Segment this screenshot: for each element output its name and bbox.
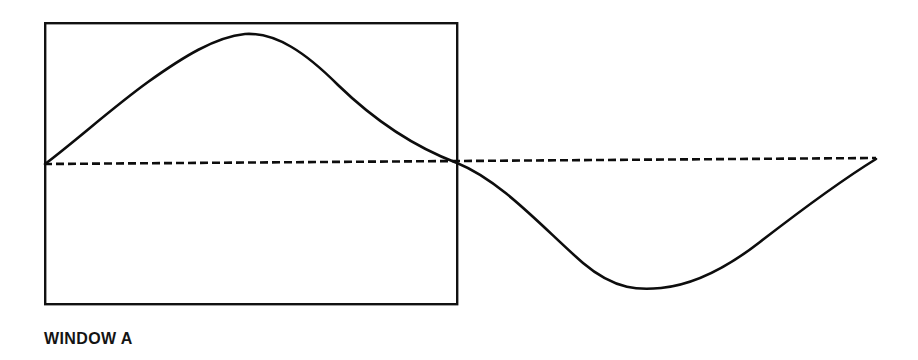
window-a-caption: WINDOW A xyxy=(44,330,133,348)
waveform-canvas xyxy=(0,0,918,360)
sine-waveform-curve xyxy=(45,34,876,289)
waveform-figure: WINDOW A xyxy=(0,0,918,360)
